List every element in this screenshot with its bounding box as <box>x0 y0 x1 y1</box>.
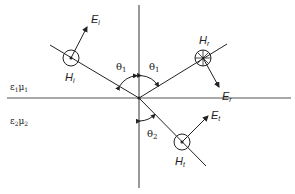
incident-e-label: Ei <box>91 13 100 26</box>
incident-h-label: Hi <box>65 71 75 84</box>
reflected-angle-label: θ1 <box>149 61 160 74</box>
reflected-angle-arc <box>141 76 159 87</box>
transmitted-e-label: Et <box>211 109 221 122</box>
transmitted-angle-label: θ2 <box>147 128 158 141</box>
diagram-canvas: Ei Er Et Hi Hr Ht θ1 θ1 θ2 ε1μ1 ε2μ2 <box>0 0 295 194</box>
transmitted-e-field-arrow <box>182 116 208 142</box>
reflected-h-label: Hr <box>199 34 210 47</box>
incident-angle-label: θ1 <box>116 61 127 74</box>
upper-medium-label: ε1μ1 <box>10 82 28 93</box>
incident-e-field-arrow <box>71 27 87 58</box>
transmitted-h-label: Ht <box>175 155 186 168</box>
reflected-e-label: Er <box>222 90 232 103</box>
incident-angle-arc <box>120 76 138 87</box>
transmitted-angle-arc <box>140 115 155 122</box>
lower-medium-label: ε2μ2 <box>10 116 28 127</box>
reflected-e-field-arrow <box>203 58 219 87</box>
wave-interface-diagram: Ei Er Et Hi Hr Ht θ1 θ1 θ2 ε1μ1 ε2μ2 <box>0 0 295 194</box>
